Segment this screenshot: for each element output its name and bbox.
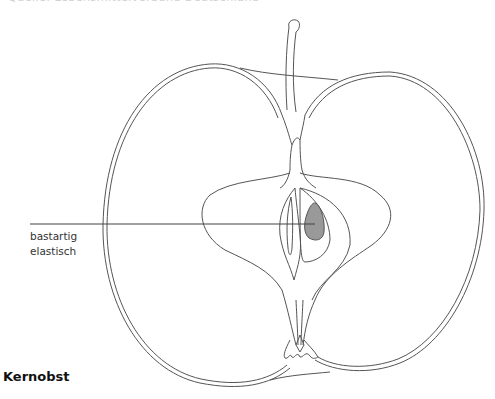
apple-skin-right (305, 72, 484, 371)
annotation-line-2: elastisch (30, 244, 77, 259)
diagram-title: Kernobst (3, 369, 70, 384)
apple-cross-section-diagram (0, 0, 495, 399)
apple-seed (305, 203, 325, 240)
apple-skin-left (103, 64, 290, 387)
skin-top-bridge (240, 68, 338, 80)
annotation-label: bastartig elastisch (30, 229, 77, 259)
core-channel-upper (280, 115, 316, 188)
apple-stem (286, 20, 300, 112)
annotation-line-1: bastartig (30, 229, 77, 244)
